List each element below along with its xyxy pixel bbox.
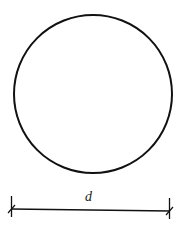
dimension-label: d [85,189,93,204]
dimension-line [11,209,170,211]
circle-diagram: d [0,0,185,228]
diameter-dimension: d [8,189,173,219]
circle-shape [14,15,172,173]
